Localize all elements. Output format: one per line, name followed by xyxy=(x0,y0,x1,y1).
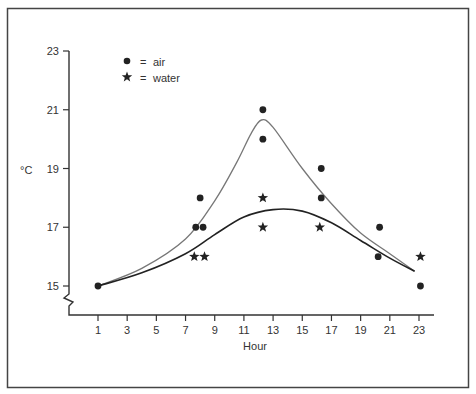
air-point xyxy=(259,106,266,113)
legend-water-equals: = xyxy=(140,72,146,84)
y-tick-label: 21 xyxy=(47,104,59,116)
y-tick-label: 17 xyxy=(47,221,59,233)
air-point xyxy=(197,194,204,201)
air-point xyxy=(95,283,102,290)
legend-air-dot-icon xyxy=(124,58,131,65)
air-point xyxy=(259,136,266,143)
y-tick-label: 15 xyxy=(47,280,59,292)
x-axis-label: Hour xyxy=(243,340,267,352)
x-tick-label: 5 xyxy=(153,324,159,336)
x-tick-label: 7 xyxy=(182,324,188,336)
x-tick-label: 21 xyxy=(384,324,396,336)
air-point xyxy=(192,224,199,231)
x-tick-label: 17 xyxy=(325,324,337,336)
y-axis-label: °C xyxy=(20,164,32,176)
x-tick-label: 3 xyxy=(124,324,130,336)
x-tick-label: 9 xyxy=(212,324,218,336)
x-tick-label: 1 xyxy=(95,324,101,336)
air-point xyxy=(318,165,325,172)
x-tick-label: 19 xyxy=(355,324,367,336)
legend-air-label: air xyxy=(153,56,166,68)
x-tick-label: 15 xyxy=(296,324,308,336)
x-tick-label: 23 xyxy=(413,324,425,336)
air-point xyxy=(375,253,382,260)
air-point xyxy=(376,224,383,231)
temperature-chart: 15171921231357911131517192123 °C Hour = … xyxy=(0,0,476,394)
air-point xyxy=(200,224,207,231)
y-tick-label: 23 xyxy=(47,45,59,57)
x-tick-label: 11 xyxy=(238,324,249,336)
legend-water-label: water xyxy=(152,72,180,84)
legend-air-equals: = xyxy=(140,56,146,68)
y-tick-label: 19 xyxy=(47,163,59,175)
air-point xyxy=(318,194,325,201)
air-point xyxy=(417,283,424,290)
x-tick-label: 13 xyxy=(267,324,279,336)
